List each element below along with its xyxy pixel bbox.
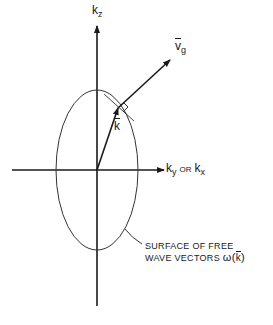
surface-caption: SURFACE OF FREE WAVE VECTORS ω(k) (145, 241, 245, 264)
kz-axis-label: kz (92, 3, 103, 17)
caption-line-2: WAVE VECTORS ω(k) (145, 252, 245, 264)
horizontal-axis-label: kyORkx (166, 161, 205, 175)
diagram-canvas (0, 0, 273, 325)
caption-leader-line (125, 229, 142, 244)
vg-vector-label: vg (175, 39, 186, 53)
group-velocity-vector-arrow (118, 60, 170, 108)
k-vector-label: k (114, 119, 120, 133)
